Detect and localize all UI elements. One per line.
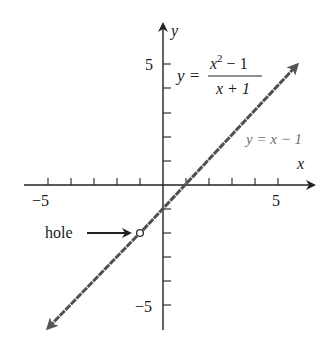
equation-denominator: x + 1: [215, 80, 250, 97]
y-tick-label-min: −5: [135, 298, 152, 315]
line-label: y = x − 1: [244, 131, 302, 147]
x-axis-label: x: [296, 155, 304, 172]
graph: y x −5 5 5 −5 hole y = x2 − 1 x + 1 y = …: [0, 0, 328, 356]
x-tick-label-max: 5: [272, 192, 280, 209]
equation-lhs: y =: [175, 66, 200, 85]
x-tick-label-min: −5: [32, 192, 49, 209]
equation-numerator: x2 − 1: [209, 52, 248, 72]
hole-marker: [137, 230, 144, 237]
y-tick-label-max: 5: [145, 56, 153, 73]
hole-label: hole: [45, 224, 73, 241]
function-equation: y = x2 − 1 x + 1: [175, 52, 262, 97]
y-axis-label: y: [169, 22, 179, 40]
function-line-lower: [48, 236, 137, 328]
